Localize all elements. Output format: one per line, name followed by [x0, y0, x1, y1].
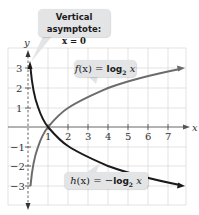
svg-text:2: 2: [16, 83, 22, 94]
x-axis: [8, 124, 190, 130]
svg-text:3: 3: [85, 131, 91, 142]
svg-text:4: 4: [105, 131, 111, 142]
x-axis-label: x: [192, 122, 198, 133]
svg-text:−1: −1: [10, 142, 25, 153]
h-arrowhead: [177, 183, 185, 189]
svg-text:2: 2: [65, 131, 71, 142]
svg-text:−3: −3: [10, 181, 25, 192]
svg-text:7: 7: [165, 131, 171, 142]
x-tick-labels: 1 2 3 4 5 6 7: [45, 131, 171, 142]
h-function-rest: (x) = −: [77, 175, 114, 186]
f-function-rest: (x) =: [78, 63, 106, 74]
h-argument: x: [133, 175, 142, 186]
h-log: log: [113, 176, 129, 186]
asymptote-equation: x = 0: [38, 35, 110, 47]
svg-text:1: 1: [16, 103, 22, 114]
f-argument: x: [126, 63, 135, 74]
y-tick-labels: 3 2 1 −1 −2 −3: [10, 63, 25, 192]
svg-text:6: 6: [145, 131, 151, 142]
f-curve: [31, 69, 181, 186]
f-log: log: [107, 64, 123, 74]
f-label-callout: f(x) = log2 x: [74, 60, 136, 77]
h-label-callout: h(x) = −log2 x: [64, 172, 148, 189]
y-axis-label: y: [23, 37, 30, 48]
h-curve: [31, 68, 181, 185]
svg-text:3: 3: [16, 63, 22, 74]
f-callout-tail: [88, 76, 98, 84]
asymptote-callout: Vertical asymptote: x = 0: [38, 9, 110, 37]
f-arrowhead: [177, 66, 185, 72]
asymptote-title: Vertical asymptote:: [38, 11, 110, 35]
svg-text:−2: −2: [10, 161, 25, 172]
svg-text:1: 1: [45, 131, 51, 142]
svg-text:5: 5: [125, 131, 131, 142]
